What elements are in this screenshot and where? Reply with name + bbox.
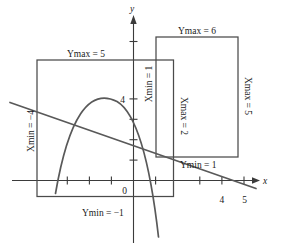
y-axis-label: y xyxy=(129,4,135,14)
left-window-xmin-label: Xmin = −4 xyxy=(26,110,36,152)
left-window-ymax-label: Ymax = 5 xyxy=(67,49,105,59)
x-axis-label: x xyxy=(262,176,268,186)
x-tick-label-5: 5 xyxy=(242,195,247,205)
graph-figure: x y 0 4 5 4 Ymax = 5 Ymin = −1 Xmin = −4… xyxy=(0,0,281,249)
origin-label: 0 xyxy=(122,186,127,196)
right-viewing-window-rect xyxy=(156,37,238,157)
right-window-ymin-label: Ymin = 1 xyxy=(180,160,217,170)
y-axis-arrowhead xyxy=(130,15,136,24)
x-tick-label-4: 4 xyxy=(220,195,225,205)
right-window-ymax-label: Ymax = 6 xyxy=(178,26,216,36)
left-window-ymin-label: Ymin = −1 xyxy=(82,208,124,218)
x-axis-arrowhead xyxy=(252,177,260,183)
right-window-xmax-label: Xmax = 5 xyxy=(243,77,253,115)
left-window-xmax-label: Xmax = 2 xyxy=(179,97,189,135)
right-window-xmin-label: Xmin = 1 xyxy=(144,66,154,103)
y-tick-label-4: 4 xyxy=(120,95,125,105)
coordinate-plane-svg: x y 0 4 5 4 Ymax = 5 Ymin = −1 Xmin = −4… xyxy=(0,0,281,249)
